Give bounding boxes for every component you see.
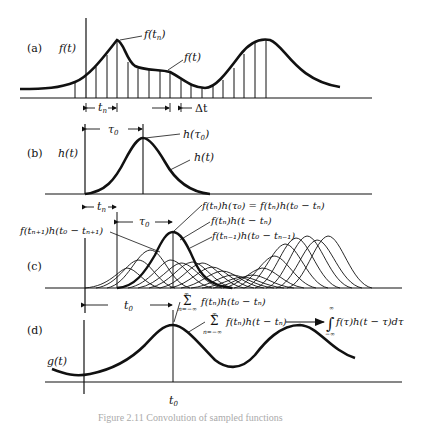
sample-lines xyxy=(75,40,266,98)
c-annotation-2: f(tₙ)h(t − tₙ) xyxy=(210,215,272,226)
panel-a: (a) f(t) f(tn) xyxy=(20,18,372,115)
svg-text:n=−∞: n=−∞ xyxy=(178,305,197,312)
svg-text:∞: ∞ xyxy=(212,310,217,317)
d-annotation-1: f(tₙ)h(t₀ − tₙ) xyxy=(200,296,266,307)
svg-text:∞: ∞ xyxy=(329,304,334,311)
f-tn-label: f(tn) xyxy=(143,28,166,42)
d-annotation-2: f(tₙ)h(t − tₙ) xyxy=(225,316,287,327)
c-annotation-3: f(tₙ₋₁)h(t₀ − tₙ₋₁) xyxy=(211,230,295,241)
h-curve xyxy=(85,138,210,194)
svg-text:n=−∞: n=−∞ xyxy=(203,328,222,335)
figure-caption: Figure 2.11 Convolution of sampled funct… xyxy=(98,412,283,423)
panel-a-label: (a) xyxy=(27,42,42,55)
panel-b-label: (b) xyxy=(27,147,43,160)
panel-c-label: (c) xyxy=(27,260,42,273)
svg-text:−∞: −∞ xyxy=(325,330,335,337)
f-axis-label: f(t) xyxy=(58,42,76,55)
h-tau0-label: h(τ0) xyxy=(183,128,209,142)
g-axis-label: g(t) xyxy=(47,355,67,368)
shifted-responses xyxy=(85,236,372,288)
d-t0-dim-label: t0 xyxy=(124,299,133,313)
t0-tick-label: t0 xyxy=(169,394,178,408)
tau0-label: τ0 xyxy=(108,123,119,137)
convolution-figure: (a) f(t) f(tn) xyxy=(0,0,422,423)
tn-label: tn xyxy=(98,101,107,115)
svg-text:∞: ∞ xyxy=(184,290,189,297)
f-t-label: f(t) xyxy=(183,51,201,64)
h-axis-label: h(t) xyxy=(58,147,78,160)
c-annotation-4: f(tₙ₊₁)h(t₀ − tₙ₊₁) xyxy=(19,225,103,236)
d-annotation-3: f(τ)h(t − τ)dτ xyxy=(335,316,404,327)
panel-d-label: (d) xyxy=(27,324,43,337)
c-annotation-1: f(tₙ)h(τ₀) = f(tₙ)h(t₀ − tₙ) xyxy=(201,200,325,211)
panel-b: (b) h(t) τ0 h(τ0) h(t) xyxy=(27,123,372,194)
h-t-label: h(t) xyxy=(194,151,214,164)
c-tau0-label: τ0 xyxy=(139,215,150,229)
delta-t-label: Δt xyxy=(195,102,208,115)
panel-d: (d) g(t) t0 t0 Σ ∞ n=−∞ f(tₙ)h(t₀ − tₙ) … xyxy=(27,290,404,408)
c-tn-label: tn xyxy=(97,200,106,214)
